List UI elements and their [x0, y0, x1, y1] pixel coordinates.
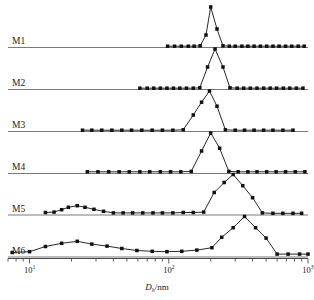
data-point-m4-2: [107, 170, 111, 174]
data-point-m5-11: [141, 211, 145, 215]
data-point-m2-11: [213, 47, 217, 51]
data-point-m2-19: [268, 86, 272, 90]
data-point-m1-2: [180, 44, 184, 48]
data-point-m6-5: [90, 242, 94, 246]
data-point-m1-20: [290, 44, 294, 48]
data-point-m5-26: [291, 212, 295, 216]
data-point-m2-16: [249, 86, 253, 90]
data-point-m2-20: [275, 86, 279, 90]
x-axis-title-unit: /nm: [155, 282, 169, 292]
dls-size-distribution-figure: M1M2M3M4M5M6 101102103 Dh/nm: [0, 0, 314, 300]
data-point-m1-15: [259, 44, 263, 48]
data-point-m6-22: [306, 252, 310, 256]
data-point-m1-3: [187, 44, 191, 48]
data-point-m6-3: [60, 242, 64, 246]
data-point-m6-17: [254, 226, 257, 230]
data-point-m4-16: [246, 170, 250, 174]
data-point-m2-17: [255, 86, 259, 90]
data-point-m3-9: [171, 128, 175, 132]
data-point-m4-15: [236, 170, 240, 174]
x-tick-label-base-1000: 10: [302, 265, 311, 275]
data-point-m2-1: [145, 86, 149, 90]
data-point-m5-3: [67, 206, 71, 210]
data-point-m5-24: [271, 212, 275, 216]
data-point-m5-23: [261, 211, 265, 215]
data-point-m4-11: [200, 149, 204, 153]
data-point-m1-17: [271, 44, 275, 48]
x-tick-label-base-100: 10: [163, 265, 172, 275]
data-point-m1-14: [252, 44, 256, 48]
data-point-m6-19: [275, 252, 279, 256]
data-point-m6-11: [180, 250, 184, 254]
data-point-m4-0: [86, 170, 90, 174]
data-point-m3-3: [110, 128, 114, 132]
data-point-m5-21: [241, 184, 245, 188]
data-point-m2-22: [288, 86, 292, 90]
row-label-m3: M3: [12, 120, 25, 130]
data-point-m5-9: [121, 211, 125, 215]
data-point-m6-20: [286, 252, 290, 256]
data-point-m4-5: [138, 170, 142, 174]
data-point-m1-11: [233, 44, 237, 48]
data-point-m1-21: [296, 44, 300, 48]
data-point-m2-8: [192, 86, 196, 90]
data-point-m2-13: [228, 86, 232, 90]
data-point-m6-10: [165, 250, 169, 254]
row-label-m5: M5: [12, 204, 25, 214]
data-point-m6-12: [195, 248, 199, 252]
data-point-m5-27: [300, 212, 304, 216]
data-point-m3-13: [208, 89, 212, 93]
data-point-m2-5: [172, 86, 176, 90]
data-point-m3-4: [120, 128, 124, 132]
data-point-m5-5: [83, 206, 87, 210]
data-point-m6-4: [75, 240, 79, 244]
x-tick-label-1000: 103: [302, 264, 314, 275]
data-point-m1-5: [198, 44, 202, 48]
data-point-m3-15: [224, 128, 228, 132]
baselines-group: [8, 48, 308, 258]
data-point-m2-24: [301, 86, 305, 90]
data-point-m2-6: [178, 86, 182, 90]
data-point-m3-19: [262, 128, 266, 132]
data-point-m5-22: [251, 196, 255, 200]
data-point-m4-19: [274, 170, 278, 174]
data-point-m3-1: [90, 128, 94, 132]
x-tick-label-base-10: 10: [24, 265, 33, 275]
data-point-m1-22: [303, 44, 307, 48]
data-point-m6-16: [243, 215, 247, 219]
data-point-m6-15: [231, 226, 235, 230]
data-point-m1-4: [192, 44, 196, 48]
data-point-m4-14: [227, 170, 231, 174]
data-point-m1-6: [204, 33, 208, 37]
data-point-m3-17: [243, 128, 247, 132]
data-point-m1-12: [240, 44, 244, 48]
data-point-m1-18: [277, 44, 281, 48]
data-point-m2-12: [221, 65, 225, 69]
data-point-m4-4: [128, 170, 132, 174]
data-point-m4-12: [209, 131, 213, 135]
data-point-m3-10: [181, 128, 185, 132]
x-tick-label-100: 102: [163, 264, 175, 275]
data-point-m5-10: [131, 211, 135, 215]
data-point-m3-21: [281, 128, 285, 132]
data-point-m2-23: [295, 86, 299, 90]
x-axis-title-text: Dh/nm: [144, 282, 169, 293]
data-point-m6-21: [298, 252, 302, 256]
data-point-m6-7: [120, 247, 124, 251]
data-point-m6-8: [135, 249, 139, 253]
data-point-m2-15: [242, 86, 246, 90]
data-point-m2-7: [185, 86, 189, 90]
data-point-m1-16: [265, 44, 269, 48]
data-point-m5-14: [171, 211, 175, 215]
data-point-m6-14: [220, 236, 224, 240]
data-point-m4-7: [159, 170, 163, 174]
data-point-m5-17: [202, 210, 206, 214]
data-point-m4-8: [169, 170, 173, 174]
data-point-m3-7: [150, 128, 154, 132]
data-point-m3-16: [233, 128, 237, 132]
data-point-m1-13: [246, 44, 250, 48]
x-tick-label-exponent-10: 1: [32, 264, 35, 270]
data-point-m4-1: [96, 170, 100, 174]
data-point-m3-2: [100, 128, 104, 132]
data-point-m6-6: [105, 244, 109, 248]
